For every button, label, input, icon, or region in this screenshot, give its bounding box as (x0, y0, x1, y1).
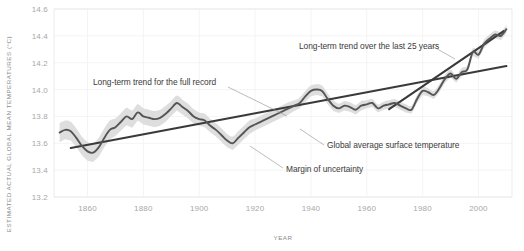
x-tick-label: 1880 (134, 204, 153, 213)
annotation-label-annot-margin: Margin of uncertainty (286, 164, 364, 174)
global-temperature-line-chart: 13.213.413.613.814.014.214.414.6 1860188… (0, 0, 524, 251)
x-tick-label: 2000 (469, 204, 488, 213)
annotation-label-annot-last-25: Long-term trend over the last 25 years (299, 41, 439, 51)
y-tick-label: 14.6 (32, 5, 49, 14)
x-tick-label: 1940 (302, 204, 321, 213)
chart-container: 13.213.413.613.814.014.214.414.6 1860188… (0, 0, 524, 251)
y-tick-label: 14.2 (32, 59, 49, 68)
y-tick-label: 13.2 (32, 193, 49, 202)
y-tick-label: 14.4 (32, 32, 49, 41)
x-axis-title: YEAR (273, 234, 292, 241)
x-tick-label: 1960 (357, 204, 376, 213)
annotation-label-annot-global-average: Global average surface temperature (327, 140, 460, 150)
y-axis-title: ESTIMATED ACTUAL GLOBAL MEAN TEMPERATURE… (5, 36, 12, 232)
x-tick-label: 1860 (78, 204, 97, 213)
x-tick-label: 1900 (190, 204, 209, 213)
x-tick-label: 1920 (246, 204, 265, 213)
y-tick-label: 13.4 (32, 166, 49, 175)
y-tick-label: 13.8 (32, 112, 49, 121)
annotation-label-annot-full-record: Long-term trend for the full record (93, 77, 216, 87)
y-tick-label: 14.0 (32, 86, 49, 95)
x-tick-label: 1980 (413, 204, 432, 213)
y-tick-label: 13.6 (32, 139, 49, 148)
